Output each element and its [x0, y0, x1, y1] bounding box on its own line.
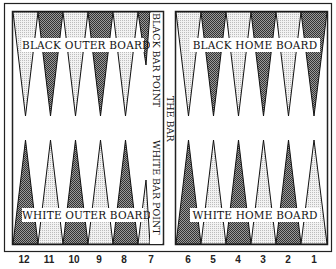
black-home-board-label: BLACK HOME BOARD — [190, 38, 320, 52]
white-bar-point-label: WHITE BAR POINT — [150, 140, 162, 244]
point-number: 8 — [114, 254, 134, 265]
point-number: 6 — [178, 254, 198, 265]
black-outer-board-label: BLACK OUTER BOARD — [22, 38, 144, 52]
point-number: 4 — [228, 254, 248, 265]
the-bar-label: THE BAR — [164, 96, 176, 166]
point-number: 10 — [64, 254, 84, 265]
white-home-board-label: WHITE HOME BOARD — [190, 208, 320, 222]
point-number: 5 — [203, 254, 223, 265]
point-number: 9 — [89, 254, 109, 265]
point-number: 2 — [278, 254, 298, 265]
point-number: 11 — [39, 254, 59, 265]
point-number: 3 — [253, 254, 273, 265]
point-number: 7 — [141, 254, 161, 265]
black-bar-point-label: BLACK BAR POINT — [150, 13, 162, 118]
point-number: 1 — [304, 254, 324, 265]
white-outer-board-label: WHITE OUTER BOARD — [22, 208, 144, 222]
point-number: 12 — [14, 254, 34, 265]
